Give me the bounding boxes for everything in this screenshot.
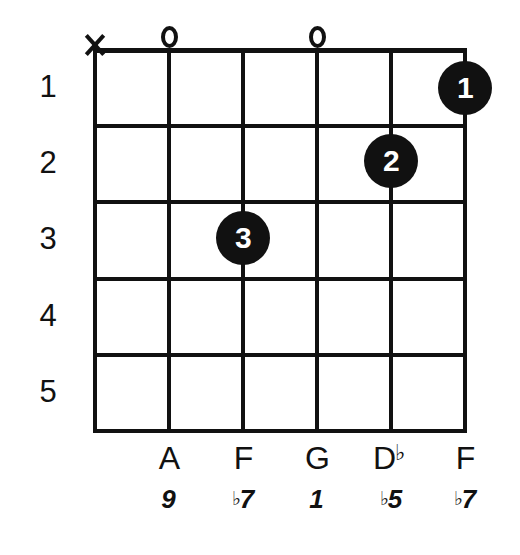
- fret-number-3: 3: [28, 223, 68, 254]
- string-line-1: [93, 50, 97, 432]
- note-name: D: [373, 440, 396, 476]
- note-label-string-2: A: [134, 442, 204, 474]
- nut-line: [93, 48, 467, 53]
- note-label-string-5: D♭: [354, 442, 424, 474]
- fret-number-1: 1: [28, 71, 68, 102]
- mute-marker-string-1: [82, 32, 108, 58]
- interval-degree: 1: [309, 484, 323, 514]
- interval-degree: 5: [388, 484, 402, 514]
- flat-symbol: ♭: [395, 440, 405, 465]
- interval-label-string-6: ♭7: [430, 486, 500, 512]
- finger-dot-string-6-fret-1: 1: [438, 61, 492, 115]
- string-line-4: [315, 50, 319, 432]
- fret-line-4: [93, 353, 467, 357]
- interval-degree: 9: [161, 484, 175, 514]
- string-line-5: [389, 50, 393, 432]
- interval-degree: 7: [240, 484, 254, 514]
- open-marker-string-4: [309, 26, 326, 48]
- interval-label-string-2: 9: [134, 486, 204, 512]
- interval-label-string-3: ♭7: [208, 486, 278, 512]
- interval-degree: 7: [462, 484, 476, 514]
- finger-dot-string-3-fret-3: 3: [216, 211, 270, 265]
- finger-dot-string-5-fret-2: 2: [364, 134, 418, 188]
- interval-label-string-4: 1: [282, 486, 352, 512]
- fret-number-4: 4: [28, 300, 68, 331]
- note-name: A: [159, 440, 180, 476]
- note-name: F: [456, 440, 476, 476]
- fret-line-3: [93, 277, 467, 281]
- string-line-2: [167, 50, 171, 432]
- fret-line-5: [93, 429, 467, 433]
- note-label-string-3: F: [208, 442, 278, 474]
- fret-line-2: [93, 200, 467, 204]
- chord-diagram: 1 2 3 4 5 1 2 3 A F G D♭ F 9 ♭7 1 ♭5 ♭7: [0, 0, 520, 555]
- fret-line-1: [93, 124, 467, 128]
- open-marker-string-2: [161, 26, 178, 48]
- fret-number-2: 2: [28, 147, 68, 178]
- note-label-string-4: G: [282, 442, 352, 474]
- fret-number-5: 5: [28, 376, 68, 407]
- note-name: F: [234, 440, 254, 476]
- note-label-string-6: F: [430, 442, 500, 474]
- interval-label-string-5: ♭5: [356, 486, 426, 512]
- note-name: G: [305, 440, 330, 476]
